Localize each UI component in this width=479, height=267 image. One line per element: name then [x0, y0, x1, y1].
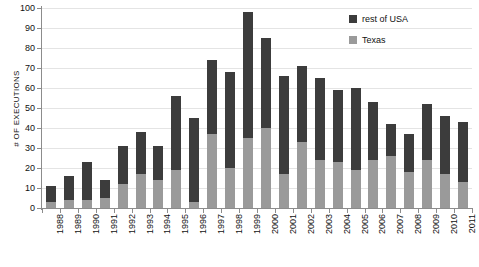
x-axis-tick-label: 2009	[431, 214, 441, 234]
x-axis-tick	[132, 208, 133, 213]
x-axis-tick	[436, 208, 437, 213]
bar-group[interactable]	[351, 88, 361, 208]
bar-group[interactable]	[136, 132, 146, 208]
x-axis-tick-label: 2004	[342, 214, 352, 234]
bar-segment-texas[interactable]	[153, 180, 163, 208]
bar-segment-texas[interactable]	[189, 202, 199, 208]
bar-group[interactable]	[404, 134, 414, 208]
bar-segment-texas[interactable]	[386, 156, 396, 208]
bar-group[interactable]	[82, 162, 92, 208]
bar-segment-texas[interactable]	[46, 202, 56, 208]
bar-segment-rest-of-usa[interactable]	[261, 38, 271, 128]
bar-group[interactable]	[315, 78, 325, 208]
bar-group[interactable]	[64, 176, 74, 208]
bar-group[interactable]	[46, 186, 56, 208]
bar-segment-rest-of-usa[interactable]	[189, 118, 199, 202]
bar-group[interactable]	[386, 124, 396, 208]
bar-segment-texas[interactable]	[404, 172, 414, 208]
bar-group[interactable]	[171, 96, 181, 208]
bar-group[interactable]	[100, 180, 110, 208]
bar-segment-texas[interactable]	[136, 174, 146, 208]
bar-segment-rest-of-usa[interactable]	[315, 78, 325, 160]
bar-segment-rest-of-usa[interactable]	[351, 88, 361, 170]
bar-segment-rest-of-usa[interactable]	[440, 116, 450, 174]
x-axis-tick	[185, 208, 186, 213]
x-axis-tick	[114, 208, 115, 213]
x-axis-tick-label: 1994	[162, 214, 172, 234]
x-axis-tick-label: 2003	[324, 214, 334, 234]
x-axis-tick-label: 2011	[467, 214, 477, 233]
bar-group[interactable]	[261, 38, 271, 208]
bar-segment-rest-of-usa[interactable]	[404, 134, 414, 172]
bar-group[interactable]	[118, 146, 128, 208]
bar-segment-rest-of-usa[interactable]	[368, 102, 378, 160]
bar-segment-rest-of-usa[interactable]	[297, 66, 307, 142]
x-axis-tick	[329, 208, 330, 213]
bar-segment-texas[interactable]	[279, 174, 289, 208]
y-axis-tick-label: 10	[25, 183, 35, 193]
bar-segment-texas[interactable]	[64, 200, 74, 208]
bar-segment-texas[interactable]	[118, 184, 128, 208]
y-axis-tick-label: 80	[25, 43, 35, 53]
bar-segment-texas[interactable]	[171, 170, 181, 208]
bar-segment-texas[interactable]	[458, 182, 468, 208]
bar-segment-texas[interactable]	[100, 198, 110, 208]
bar-segment-texas[interactable]	[422, 160, 432, 208]
bar-group[interactable]	[153, 146, 163, 208]
x-axis-tick-label: 1997	[216, 214, 226, 234]
bar-segment-rest-of-usa[interactable]	[225, 72, 235, 168]
x-axis-tick	[418, 208, 419, 213]
bar-segment-texas[interactable]	[333, 162, 343, 208]
bar-segment-texas[interactable]	[225, 168, 235, 208]
x-axis-tick-label: 2006	[377, 214, 387, 234]
bar-group[interactable]	[458, 122, 468, 208]
bar-segment-rest-of-usa[interactable]	[333, 90, 343, 162]
bar-segment-rest-of-usa[interactable]	[46, 186, 56, 202]
x-axis-tick-label: 2001	[288, 214, 298, 234]
bar-segment-texas[interactable]	[351, 170, 361, 208]
bar-group[interactable]	[243, 12, 253, 208]
bar-segment-rest-of-usa[interactable]	[279, 76, 289, 174]
bar-group[interactable]	[440, 116, 450, 208]
bar-segment-rest-of-usa[interactable]	[136, 132, 146, 174]
x-axis-tick-label: 2010	[449, 214, 459, 234]
x-axis-tick-label: 1990	[91, 214, 101, 234]
bar-group[interactable]	[279, 76, 289, 208]
bar-segment-texas[interactable]	[297, 142, 307, 208]
bar-segment-texas[interactable]	[243, 138, 253, 208]
y-axis-title: # OF EXECUTIONS	[12, 39, 21, 179]
bar-group[interactable]	[422, 104, 432, 208]
bar-segment-texas[interactable]	[368, 160, 378, 208]
bar-group[interactable]	[297, 66, 307, 208]
bar-segment-texas[interactable]	[440, 174, 450, 208]
bar-segment-rest-of-usa[interactable]	[422, 104, 432, 160]
legend-item-rest-of-usa: rest of USA	[349, 14, 408, 24]
bar-group[interactable]	[333, 90, 343, 208]
bar-segment-rest-of-usa[interactable]	[100, 180, 110, 198]
x-axis-tick	[239, 208, 240, 213]
bar-segment-rest-of-usa[interactable]	[118, 146, 128, 184]
bar-group[interactable]	[207, 60, 217, 208]
bar-segment-rest-of-usa[interactable]	[243, 12, 253, 138]
bar-segment-texas[interactable]	[261, 128, 271, 208]
bar-segment-texas[interactable]	[315, 160, 325, 208]
bar-segment-rest-of-usa[interactable]	[64, 176, 74, 200]
x-axis-tick	[78, 208, 79, 213]
bar-segment-rest-of-usa[interactable]	[458, 122, 468, 182]
bar-segment-texas[interactable]	[207, 134, 217, 208]
bar-group[interactable]	[368, 102, 378, 208]
y-axis-tick-label: 20	[25, 163, 35, 173]
x-axis-tick-label: 2007	[395, 214, 405, 234]
bar-segment-rest-of-usa[interactable]	[82, 162, 92, 200]
bar-segment-rest-of-usa[interactable]	[153, 146, 163, 180]
bar-segment-rest-of-usa[interactable]	[171, 96, 181, 170]
x-axis-tick	[382, 208, 383, 213]
bar-segment-texas[interactable]	[82, 200, 92, 208]
bar-group[interactable]	[189, 118, 199, 208]
y-axis-tick-label: 90	[25, 23, 35, 33]
bar-group[interactable]	[225, 72, 235, 208]
bar-segment-rest-of-usa[interactable]	[386, 124, 396, 156]
bar-segment-rest-of-usa[interactable]	[207, 60, 217, 134]
x-axis-tick	[347, 208, 348, 213]
x-axis-tick-label: 1996	[198, 214, 208, 234]
